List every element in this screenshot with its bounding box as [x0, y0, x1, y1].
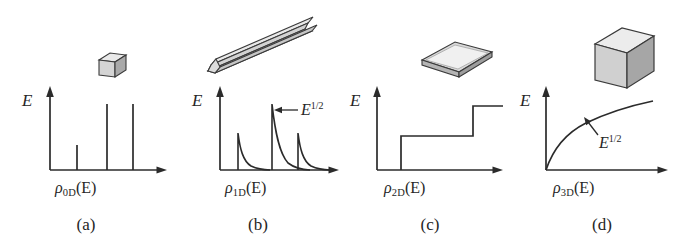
quantum-dot-cube-icon [99, 53, 126, 77]
annotation-base: E [301, 101, 311, 118]
panel-c-2d: E ρ2D(E) (c) [344, 0, 516, 250]
rho-symbol: ρ [384, 179, 392, 196]
rho-symbol: ρ [55, 179, 63, 196]
rho-subscript: 1D [233, 187, 246, 198]
panel-d-graphic [516, 0, 688, 250]
panel-d-x-axis-label: ρ3D(E) [553, 180, 594, 198]
panel-b-1d: E E1/2 ρ1D(E) (b) [172, 0, 344, 250]
quantum-well-sheet-icon [422, 42, 492, 77]
panel-d-axes [542, 86, 668, 174]
panel-c-axes [373, 86, 503, 174]
panel-b-caption: (b) [172, 216, 344, 233]
annotation-exponent: 1/2 [311, 100, 324, 111]
panel-b-y-axis-label: E [192, 92, 202, 109]
panel-a-0d: E ρ0D(E) (a) [0, 0, 172, 250]
density-of-states-figure: E ρ0D(E) (a) [0, 0, 688, 250]
panel-c-caption: (c) [344, 216, 516, 233]
panel-a-graphic [0, 0, 172, 250]
rho-subscript: 3D [561, 187, 574, 198]
panel-a-y-axis-label: E [22, 92, 32, 109]
panel-c-y-axis-label: E [350, 92, 360, 109]
rho-subscript: 0D [63, 187, 76, 198]
bulk-cube-icon [595, 28, 654, 88]
annotation-base: E [599, 134, 609, 151]
panel-c-staircase-curve [401, 106, 503, 170]
panel-d-3d: E E1/2 ρ3D(E) (d) [516, 0, 688, 250]
panel-d-power-annotation: E1/2 [599, 134, 622, 151]
rho-symbol: ρ [225, 179, 233, 196]
panel-d-y-axis-label: E [520, 92, 530, 109]
panel-d-caption: (d) [516, 216, 688, 233]
panel-b-x-axis-label: ρ1D(E) [225, 180, 266, 198]
quantum-wire-rod-icon [208, 17, 317, 73]
rho-argument: (E) [574, 179, 594, 196]
panel-d-annotation-arrow [584, 117, 598, 135]
rho-argument: (E) [405, 179, 425, 196]
panel-b-graphic [172, 0, 344, 250]
panel-c-graphic [344, 0, 516, 250]
panel-c-x-axis-label: ρ2D(E) [384, 180, 425, 198]
panel-a-caption: (a) [0, 216, 172, 233]
panel-a-delta-spikes [77, 104, 133, 170]
annotation-exponent: 1/2 [609, 133, 622, 144]
panel-b-annotation-arrow [274, 107, 298, 113]
panel-b-power-annotation: E1/2 [301, 101, 324, 118]
rho-argument: (E) [76, 179, 96, 196]
rho-symbol: ρ [553, 179, 561, 196]
rho-subscript: 2D [392, 187, 405, 198]
rho-argument: (E) [246, 179, 266, 196]
panel-a-x-axis-label: ρ0D(E) [55, 180, 96, 198]
